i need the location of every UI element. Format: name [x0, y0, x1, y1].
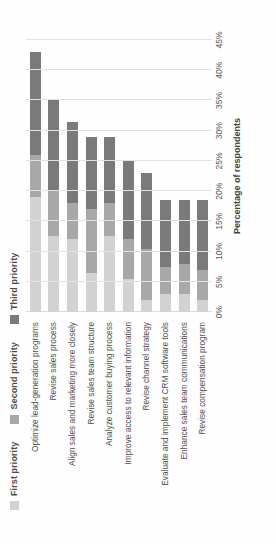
gridline — [26, 281, 212, 282]
bar-segment-second-priority[interactable] — [48, 191, 59, 236]
legend-item-label: Third priority — [9, 253, 19, 310]
bar-segment-third-priority[interactable] — [104, 137, 115, 203]
category-label: Improve access to relevant information — [123, 322, 134, 465]
gridline — [26, 99, 212, 100]
axis-tick-label: 20% — [214, 183, 224, 200]
bar-segment-first-priority[interactable] — [141, 300, 152, 312]
gridline — [26, 69, 212, 70]
bar-segment-first-priority[interactable] — [48, 236, 59, 312]
category-label: Revise sales team structure — [86, 322, 97, 424]
legend-swatch-icon — [10, 501, 19, 510]
bar-segment-third-priority[interactable] — [30, 52, 41, 155]
value-axis-title: Percentage of respondents — [232, 40, 242, 312]
category-axis-labels: Optimize lead-generation programsRevise … — [26, 316, 212, 544]
category-label: Analyze customer buying process — [104, 322, 115, 446]
bar-segment-first-priority[interactable] — [123, 279, 134, 312]
legend-item[interactable]: Second priority — [9, 342, 19, 424]
bar-row[interactable] — [179, 200, 190, 312]
bar-segment-third-priority[interactable] — [160, 200, 171, 266]
bar-segment-third-priority[interactable] — [86, 137, 97, 210]
bar-segment-first-priority[interactable] — [179, 294, 190, 312]
plot-area — [26, 40, 212, 312]
bar-segment-third-priority[interactable] — [141, 173, 152, 249]
axis-tick-label: 10% — [214, 243, 224, 260]
category-label: Revise channel strategy — [141, 322, 152, 411]
gridline — [26, 220, 212, 221]
legend-item-label: First priority — [9, 442, 19, 496]
stacked-bar-chart-figure: First prioritySecond priorityThird prior… — [0, 0, 276, 544]
axis-tick-label: 40% — [214, 62, 224, 79]
legend-item[interactable]: First priority — [9, 442, 19, 510]
chart-rotation-wrapper: First prioritySecond priorityThird prior… — [0, 0, 276, 544]
axis-tick-label: 15% — [214, 213, 224, 230]
bar-row[interactable] — [67, 122, 78, 312]
bar-segment-third-priority[interactable] — [123, 161, 134, 240]
bar-segment-second-priority[interactable] — [197, 270, 208, 300]
bar-segment-first-priority[interactable] — [197, 300, 208, 312]
gridline — [26, 160, 212, 161]
bar-segment-third-priority[interactable] — [179, 200, 190, 263]
bar-row[interactable] — [197, 200, 208, 312]
category-label: Evaluate and implement CRM software tool… — [160, 322, 171, 486]
bar-segment-first-priority[interactable] — [86, 273, 97, 312]
bar-series-group — [26, 40, 212, 312]
value-axis-ticks: 0%5%10%15%20%25%30%35%40%45% — [214, 40, 230, 312]
bar-row[interactable] — [160, 200, 171, 312]
gridline — [26, 190, 212, 191]
axis-tick-label: 25% — [214, 152, 224, 169]
bar-segment-second-priority[interactable] — [141, 249, 152, 300]
bar-segment-second-priority[interactable] — [123, 239, 134, 278]
axis-tick-label: 5% — [214, 276, 224, 288]
gridline — [26, 130, 212, 131]
category-label: Enhance sales team communications — [179, 322, 190, 459]
bar-segment-second-priority[interactable] — [86, 209, 97, 272]
axis-tick-label: 30% — [214, 122, 224, 139]
bar-segment-first-priority[interactable] — [104, 236, 115, 312]
bar-segment-first-priority[interactable] — [160, 294, 171, 312]
axis-tick-label: 0% — [214, 306, 224, 318]
gridline — [26, 39, 212, 40]
axis-tick-label: 45% — [214, 31, 224, 48]
legend-item-label: Second priority — [9, 342, 19, 410]
bar-segment-first-priority[interactable] — [30, 197, 41, 312]
bar-row[interactable] — [86, 137, 97, 312]
bar-segment-second-priority[interactable] — [179, 264, 190, 294]
legend-item[interactable]: Third priority — [9, 253, 19, 324]
bar-row[interactable] — [141, 173, 152, 312]
category-label: Revise compensation program — [197, 322, 208, 435]
bar-row[interactable] — [104, 137, 115, 312]
category-label: Revise sales process — [48, 322, 59, 400]
bar-segment-third-priority[interactable] — [197, 200, 208, 270]
chart-legend: First prioritySecond priorityThird prior… — [4, 253, 24, 510]
axis-tick-label: 35% — [214, 92, 224, 109]
bar-row[interactable] — [123, 161, 134, 312]
category-label: Optimize lead-generation programs — [30, 322, 41, 452]
bar-segment-third-priority[interactable] — [48, 100, 59, 191]
legend-swatch-icon — [10, 415, 19, 424]
gridline — [26, 251, 212, 252]
bar-row[interactable] — [30, 52, 41, 312]
category-label: Align sales and marketing more closely — [67, 322, 78, 466]
legend-swatch-icon — [10, 315, 19, 324]
